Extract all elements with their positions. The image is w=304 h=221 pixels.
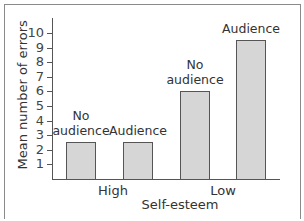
y-tick (47, 150, 52, 151)
bar-low-audience (236, 40, 266, 180)
bar-label-line: audience (160, 72, 230, 87)
bar-label-line: Audience (216, 21, 286, 36)
bar-label-low-no-audience: No audience (160, 57, 230, 87)
bar-label-line: Audience (103, 123, 173, 138)
y-tick (47, 62, 52, 63)
y-axis-label: Mean number of errors (15, 30, 30, 170)
y-tick (47, 33, 52, 34)
x-axis-label: Self-esteem (100, 197, 260, 212)
y-tick (47, 91, 52, 92)
y-tick (47, 48, 52, 49)
y-tick (47, 106, 52, 107)
bar-label-line: No (160, 57, 230, 72)
y-axis (52, 18, 53, 180)
y-tick (47, 164, 52, 165)
bar-label-low-audience: Audience (216, 21, 286, 36)
bar-low-no-audience (180, 91, 210, 180)
bar-label-high-audience: Audience (103, 123, 173, 138)
group-label-low: Low (203, 183, 243, 198)
bar-high-audience (123, 142, 153, 180)
y-tick (47, 77, 52, 78)
group-label-high: High (93, 183, 133, 198)
bar-high-no-audience (66, 142, 96, 180)
bar-label-line: No (46, 108, 116, 123)
